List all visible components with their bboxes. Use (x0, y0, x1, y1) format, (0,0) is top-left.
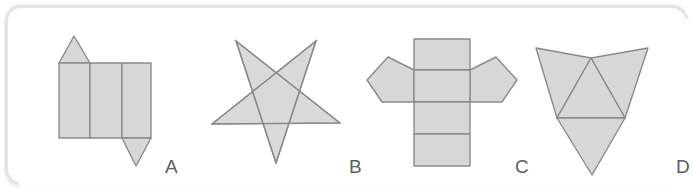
figure-label-a: A (165, 157, 178, 176)
panel-frame: A B C D (5, 5, 688, 185)
figure-label-b: B (349, 157, 362, 176)
figure-label-d: D (676, 157, 690, 176)
screenshot-root: A B C D (0, 0, 693, 190)
panel-inner: A B C D (17, 17, 692, 189)
figure-label-c: C (515, 157, 529, 176)
figure-d-bottom-flap (557, 118, 625, 175)
